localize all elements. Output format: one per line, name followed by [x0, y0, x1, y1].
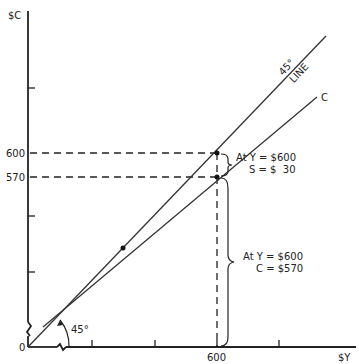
45-degree-line	[28, 36, 326, 347]
point-y600-c600	[215, 151, 220, 156]
consumption-line-label: C	[321, 92, 328, 103]
consumption-brace	[221, 178, 234, 346]
consumption-annotation-line-1: At Y = $600	[243, 251, 303, 262]
consumption-line	[43, 97, 317, 327]
saving-annotation-line-2: S = $ 30	[249, 164, 296, 175]
consumption-annotation-line-2: C = $570	[256, 263, 303, 274]
y-axis-ticks	[28, 88, 35, 272]
x-axis-label: $Y	[338, 352, 351, 363]
y-axis-label: $C	[8, 10, 21, 21]
origin-label: 0	[19, 342, 25, 353]
angle-label: 45°	[71, 324, 89, 335]
consumption-function-chart: $C $Y 0 600 570 600 45° LINE C At Y = $6…	[0, 0, 359, 364]
break-even-point	[121, 246, 126, 251]
y-tick-label-600: 600	[6, 148, 25, 159]
saving-annotation-line-1: At Y = $600	[236, 152, 296, 163]
x-axis	[28, 344, 356, 350]
point-y600-c570	[215, 175, 220, 180]
x-tick-label-600: 600	[207, 352, 226, 363]
x-axis-ticks	[92, 340, 279, 347]
y-axis	[27, 11, 31, 347]
y-tick-label-570: 570	[6, 172, 25, 183]
